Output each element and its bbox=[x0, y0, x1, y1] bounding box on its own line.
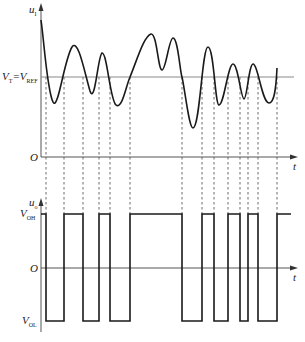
upper-axes bbox=[41, 6, 295, 157]
lower-axes bbox=[41, 201, 295, 332]
lower-x-arrow bbox=[290, 266, 298, 271]
upper-x-axis-label: t bbox=[293, 161, 296, 172]
vol-label: VOL bbox=[22, 315, 37, 328]
upper-y-arrow bbox=[39, 3, 44, 11]
upper-x-arrow bbox=[290, 155, 298, 160]
input-waveform bbox=[41, 20, 277, 128]
lower-y-arrow bbox=[39, 198, 44, 206]
comparator-diagram bbox=[0, 0, 305, 342]
lower-x-axis-label: t bbox=[293, 272, 296, 283]
upper-y-axis-label: uI bbox=[29, 4, 37, 17]
upper-origin-label: O bbox=[30, 152, 38, 163]
threshold-label: VT=VREF bbox=[2, 71, 38, 84]
lower-origin-label: O bbox=[30, 263, 38, 274]
voh-label: VOH bbox=[20, 208, 35, 221]
